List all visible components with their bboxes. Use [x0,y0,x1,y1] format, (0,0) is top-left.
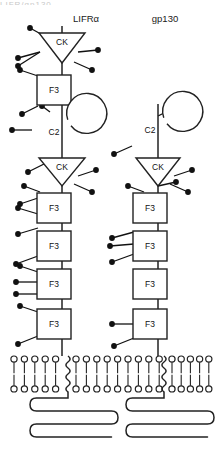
glycan-stem [114,338,134,346]
tail-lifr-tail [30,392,118,437]
lipid-head-inner [94,386,100,392]
figure-canvas: LIFR/gp130 CKF3C2CKF3F3F3F3C2CKF3F3F3F3 … [0,0,217,453]
lipid-head-inner [206,386,212,392]
lipid-head-inner [32,386,38,392]
lipid-head-outer [115,356,121,362]
cytoplasmic-tails [30,392,214,437]
glycan-stem [18,228,38,234]
glycan-icon [189,167,195,173]
glycan-icon [9,127,15,133]
membrane-break-gp130 [162,356,166,392]
domain-f3-gp130-2-label: F3 [145,203,155,213]
glycan-icon [89,67,95,73]
lipid-head-outer [156,356,162,362]
domain-f3-lifr-alpha-5-label: F3 [49,241,59,251]
lipid-head-outer [11,356,17,362]
glycan-icon [17,303,23,309]
domain-ck-lifr-alpha-3-label: CK [56,162,68,172]
glycan-icon [111,343,117,349]
glycan-icon [25,169,31,175]
lipid-head-outer [169,356,175,362]
lipid-head-inner [125,386,131,392]
glycan-icon [125,183,131,189]
lipid-head-inner [178,386,184,392]
domain-c2-lifr-alpha-2-label: C2 [49,127,60,137]
glycan-icon [27,25,33,31]
glycan-stem [114,146,132,154]
glycan-icon [21,183,27,189]
glycan-stem [18,336,38,344]
glycan-icon [13,279,19,285]
glycan-icon [15,341,21,347]
lipid-head-inner [187,386,193,392]
lipid-head-inner [169,386,175,392]
glycan-stem [112,232,134,238]
glycan-icon [15,55,21,61]
lipid-head-inner [83,386,89,392]
domain-f3-gp130-3-label: F3 [145,241,155,251]
domain-f3-lifr-alpha-4-label: F3 [49,203,59,213]
domain-f3-lifr-alpha-6-label: F3 [49,279,59,289]
glycan-icon [19,111,25,117]
lipid-head-outer [135,356,141,362]
glycan-icon [89,189,95,195]
lipid-head-inner [104,386,110,392]
lipid-head-inner [73,386,79,392]
glycan-icon [173,179,179,185]
lipid-head-outer [187,356,193,362]
lipid-head-outer [83,356,89,362]
lipid-head-inner [11,386,17,392]
domain-f3-lifr-alpha-1-label: F3 [49,85,59,95]
glycan-stem [18,208,38,214]
lipid-head-inner [146,386,152,392]
glycan-icon [17,263,23,269]
lipid-head-inner [135,386,141,392]
lipid-head-outer [53,356,59,362]
glycan-icon [15,231,21,237]
domain-c2-lifr-alpha-2[interactable] [67,93,107,133]
domain-ck-gp130-1-label: CK [152,162,164,172]
glycan-icon [107,243,113,249]
glycan-icon [93,167,99,173]
lipid-head-outer [73,356,79,362]
membrane-break-lifr-alpha [66,356,70,392]
glycan-stem [18,52,40,58]
glycan-stem [110,244,134,246]
lipid-head-outer [32,356,38,362]
lipid-head-outer [125,356,131,362]
lipid-head-inner [197,386,203,392]
glycan-stem [74,62,92,70]
glycan-icon [109,321,115,327]
glycan-stem [18,52,40,66]
lipid-head-outer [197,356,203,362]
glycan-icon [109,235,115,241]
domain-c2-gp130-0-label: C2 [145,125,156,135]
glycan-icon [17,67,23,73]
glycan-stem [78,50,98,52]
lipid-head-outer [146,356,152,362]
glycan-icon [13,291,19,297]
glycan-icon [185,189,191,195]
lipid-head-inner [42,386,48,392]
domain-c2-gp130-0[interactable] [163,91,203,131]
glycan-stem [170,184,188,192]
lipid-head-outer [21,356,27,362]
tail-gp130-tail [126,392,214,437]
glycan-icon [109,259,115,265]
lipid-bilayer [11,356,212,392]
glycan-icon [95,47,101,53]
lipid-head-inner [115,386,121,392]
glycan-stem [16,256,38,264]
domain-f3-lifr-alpha-7-label: F3 [49,319,59,329]
lipid-head-inner [53,386,59,392]
lipid-head-outer [42,356,48,362]
domain-f3-gp130-5-label: F3 [145,319,155,329]
glycan-stem [112,254,134,262]
glycan-icon [15,205,21,211]
receptor-diagram: CKF3C2CKF3F3F3F3C2CKF3F3F3F3 [0,0,217,453]
lipid-head-inner [21,386,27,392]
domain-f3-gp130-4-label: F3 [145,279,155,289]
lipid-head-outer [104,356,110,362]
glycan-stem [74,184,92,192]
lipid-head-outer [206,356,212,362]
